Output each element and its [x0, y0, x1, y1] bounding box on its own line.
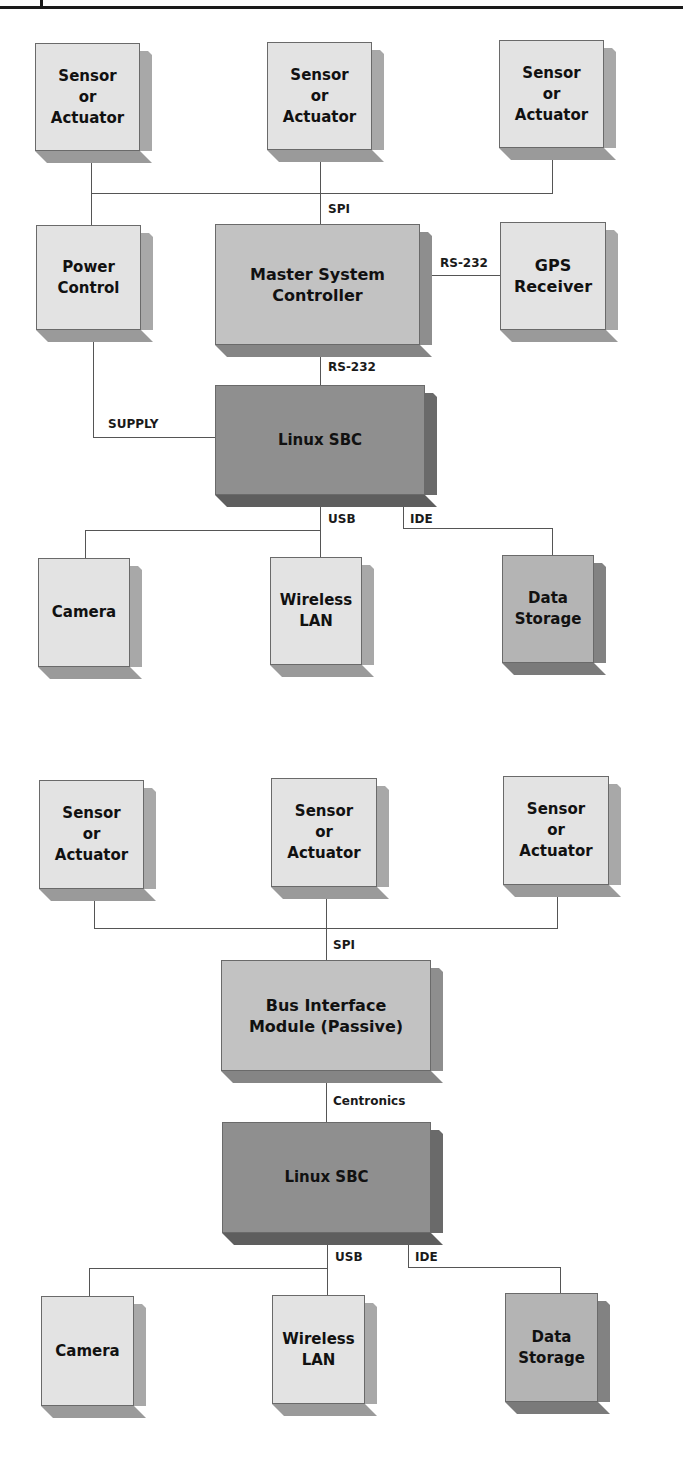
gps-receiver-box[interactable]: GPS Receiver: [500, 222, 618, 342]
usb-label: USB: [335, 1250, 363, 1264]
node-label: Linux SBC: [278, 430, 362, 451]
node-label: GPS Receiver: [514, 255, 592, 297]
camera-connector: [85, 530, 86, 558]
usb-label: USB: [328, 512, 356, 526]
ide-line-vertical: [403, 507, 404, 528]
spi-bus-line: [91, 193, 553, 194]
spi-label: SPI: [333, 938, 355, 952]
wireless-lan-box[interactable]: Wireless LAN: [272, 1295, 377, 1416]
connector-sensor2: [326, 898, 327, 960]
supply-label: SUPPLY: [108, 417, 158, 431]
usb-line-vertical: [327, 1245, 328, 1295]
node-label: Sensor or Actuator: [287, 801, 360, 864]
node-label: Data Storage: [515, 588, 582, 630]
sensor-actuator-box-3[interactable]: Sensor or Actuator: [499, 40, 616, 160]
usb-line-horizontal: [89, 1268, 328, 1269]
ide-line-horizontal: [403, 528, 552, 529]
sensor-actuator-box-2[interactable]: Sensor or Actuator: [267, 42, 384, 162]
bus-interface-module-box[interactable]: Bus Interface Module (Passive): [221, 960, 443, 1083]
centronics-line: [326, 1082, 327, 1122]
rs232-gps-line: [432, 275, 500, 276]
camera-box[interactable]: Camera: [41, 1296, 146, 1418]
wireless-lan-box[interactable]: Wireless LAN: [270, 557, 374, 677]
power-control-box[interactable]: Power Control: [36, 225, 153, 342]
node-label: Sensor or Actuator: [51, 66, 124, 129]
sensor-actuator-box-3[interactable]: Sensor or Actuator: [503, 776, 621, 897]
node-label: Wireless LAN: [282, 1329, 354, 1371]
node-label: Sensor or Actuator: [515, 63, 588, 126]
sensor-actuator-box-1[interactable]: Sensor or Actuator: [35, 43, 152, 163]
node-label: Master System Controller: [250, 264, 385, 306]
header-glyph-fragment: [40, 0, 43, 6]
rs232-gps-label: RS-232: [440, 256, 488, 270]
node-label: Wireless LAN: [280, 590, 352, 632]
header-rule: [0, 6, 683, 9]
ide-label: IDE: [410, 512, 433, 526]
rs232-sbc-line: [320, 357, 321, 385]
sensor-actuator-box-1[interactable]: Sensor or Actuator: [39, 780, 156, 901]
linux-sbc-box[interactable]: Linux SBC: [215, 385, 437, 507]
node-label: Sensor or Actuator: [55, 803, 128, 866]
connector-sensor3: [552, 160, 553, 193]
supply-line-horizontal: [93, 437, 215, 438]
camera-connector: [89, 1268, 90, 1296]
ide-label: IDE: [415, 1250, 438, 1264]
usb-line-vertical: [320, 507, 321, 557]
data-storage-box[interactable]: Data Storage: [505, 1293, 610, 1414]
supply-line-vertical: [93, 342, 94, 437]
ide-line-vertical: [408, 1245, 409, 1267]
camera-box[interactable]: Camera: [38, 558, 142, 679]
node-label: Bus Interface Module (Passive): [249, 995, 403, 1037]
master-system-controller-box[interactable]: Master System Controller: [215, 224, 432, 357]
spi-bus-line: [94, 928, 558, 929]
ide-line-horizontal: [408, 1267, 560, 1268]
node-label: Sensor or Actuator: [283, 65, 356, 128]
node-label: Camera: [55, 1341, 119, 1362]
node-label: Linux SBC: [284, 1167, 368, 1188]
usb-line-horizontal: [85, 530, 321, 531]
node-label: Data Storage: [518, 1327, 585, 1369]
storage-connector: [560, 1267, 561, 1293]
spi-label: SPI: [328, 202, 350, 216]
rs232-sbc-label: RS-232: [328, 360, 376, 374]
connector-sensor3: [557, 896, 558, 928]
data-storage-box[interactable]: Data Storage: [502, 555, 606, 675]
connector-sensor1: [94, 900, 95, 928]
sensor-actuator-box-2[interactable]: Sensor or Actuator: [271, 778, 389, 899]
node-label: Camera: [52, 602, 116, 623]
node-label: Power Control: [57, 257, 119, 299]
centronics-label: Centronics: [333, 1094, 405, 1108]
linux-sbc-box[interactable]: Linux SBC: [222, 1122, 443, 1245]
node-label: Sensor or Actuator: [519, 799, 592, 862]
storage-connector: [552, 528, 553, 555]
